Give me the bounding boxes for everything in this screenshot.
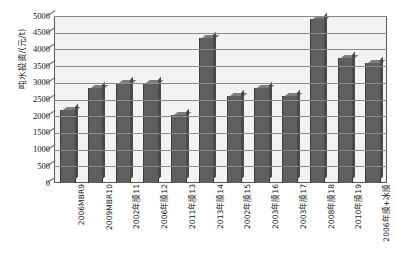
bar xyxy=(338,58,354,183)
gridline xyxy=(54,150,387,151)
bar-top-face xyxy=(341,55,358,58)
gridline xyxy=(54,166,387,167)
bar xyxy=(88,88,104,183)
gridline xyxy=(54,133,387,134)
bar-top-face xyxy=(202,35,219,38)
gridline xyxy=(54,83,387,84)
bar xyxy=(60,110,76,183)
x-axis-tick-label: 2002年膜15 xyxy=(240,184,256,254)
x-axis-tick-label: 2006MBR9 xyxy=(74,184,90,254)
gridline xyxy=(54,33,387,34)
bar-side-face xyxy=(75,103,78,180)
bar-side-face xyxy=(380,56,383,180)
x-axis-tick-labels: 2006MBR92009MBR102002年膜112006年膜122011年膜1… xyxy=(54,184,387,255)
y-axis-tick-label: 4000 xyxy=(16,45,50,54)
bar-side-face xyxy=(324,13,327,180)
bar-chart: 吨水投资/(元/t) 50004500400035003000250020001… xyxy=(0,0,395,255)
x-axis-tick-label: 2003年膜16 xyxy=(268,184,284,254)
x-axis-tick-label: 2003年膜17 xyxy=(296,184,312,254)
bar xyxy=(365,63,381,183)
x-axis-tick-label: 2013年膜14 xyxy=(213,184,229,254)
x-axis-tick-label: 2008年膜18 xyxy=(324,184,340,254)
gridline xyxy=(54,49,387,50)
gridline xyxy=(54,66,387,67)
gridline xyxy=(54,100,387,101)
plot-area xyxy=(54,16,387,183)
bar-side-face xyxy=(186,108,189,180)
x-axis-tick-label: 2009MBR10 xyxy=(102,184,118,254)
gridline xyxy=(54,16,387,17)
gridline xyxy=(54,116,387,117)
bar xyxy=(254,88,270,183)
x-axis-tick-label: 2006年膜12 xyxy=(157,184,173,254)
bar xyxy=(310,19,326,183)
x-axis-tick-label: 2006年膜+冰膜 xyxy=(379,184,395,254)
bar-side-face xyxy=(102,81,105,180)
bar-top-face xyxy=(91,85,108,88)
bar-side-face xyxy=(269,81,272,180)
x-axis-tick-label: 2010年膜19 xyxy=(351,184,367,254)
x-axis-tick-label: 2011年膜13 xyxy=(185,184,201,254)
x-axis-tick-label: 2002年膜11 xyxy=(129,184,145,254)
bar-top-face xyxy=(230,93,247,96)
bar-side-face xyxy=(158,76,161,180)
bar-side-face xyxy=(130,76,133,180)
bar xyxy=(199,38,215,183)
bar xyxy=(282,96,298,183)
bar xyxy=(227,96,243,183)
bar-side-face xyxy=(213,31,216,180)
